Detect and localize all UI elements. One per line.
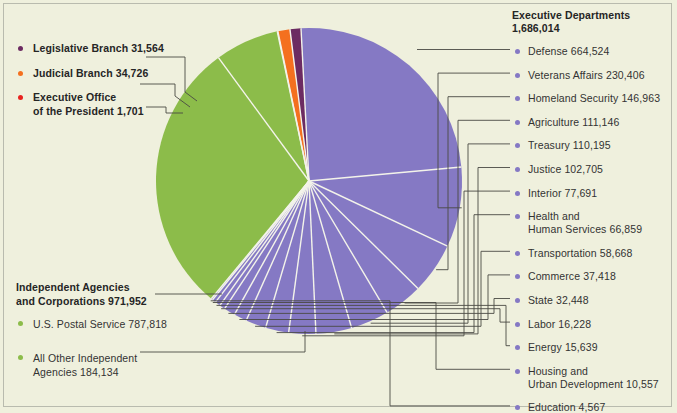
legend-label: Veterans Affairs 230,406 xyxy=(528,69,645,81)
legend-item-homeland-security-146-963[interactable]: Homeland Security 146,963 xyxy=(512,92,677,116)
legend-item-usps[interactable]: U.S. Postal Service 787,818 xyxy=(16,317,236,331)
infographic-root: Legislative Branch 31,564 Judicial Branc… xyxy=(0,0,677,413)
legend-item-commerce-37-418[interactable]: Commerce 37,418 xyxy=(512,270,677,294)
bullet-executive-department xyxy=(515,322,520,327)
legend-label: Education 4,567 xyxy=(528,401,605,413)
legend-item-justice-102-705[interactable]: Justice 102,705 xyxy=(512,163,677,187)
legend-label: Labor 16,228 xyxy=(528,318,591,330)
legend-item-treasury-110-195[interactable]: Treasury 110,195 xyxy=(512,139,677,163)
bullet-executive-office xyxy=(18,95,23,100)
bullet-executive-department xyxy=(515,73,520,78)
legend-label-line2: of the President 1,701 xyxy=(33,105,144,117)
legend-item-executive-office[interactable]: Executive Office of the President 1,701 xyxy=(16,91,216,118)
bullet-all-other-independent-agencies xyxy=(18,355,23,360)
executive-departments-list: Defense 664,524Veterans Affairs 230,406H… xyxy=(512,45,677,413)
legend-item-housing-and[interactable]: Housing andUrban Development 10,557 xyxy=(512,365,677,402)
legend-label-line2: Human Services 66,859 xyxy=(528,223,642,235)
legend-label: U.S. Postal Service 787,818 xyxy=(33,318,167,330)
bullet-executive-department xyxy=(515,167,520,172)
legend-label: Homeland Security 146,963 xyxy=(528,92,660,104)
legend-label: Interior 77,691 xyxy=(528,187,597,199)
independent-agencies-block: Independent Agencies and Corporations 97… xyxy=(16,281,236,399)
legend-label: Transportation 58,668 xyxy=(528,247,632,259)
legend-item-interior-77-691[interactable]: Interior 77,691 xyxy=(512,187,677,211)
bullet-executive-department xyxy=(515,274,520,279)
legend-label-line1: Health and xyxy=(528,210,580,222)
bullet-executive-department xyxy=(515,120,520,125)
bullet-executive-department xyxy=(515,405,520,410)
bullet-executive-department xyxy=(515,345,520,350)
pie-slice[interactable] xyxy=(301,28,461,181)
executive-departments-title: Executive Departments 1,686,014 xyxy=(512,9,677,35)
legend-label-line1: Housing and xyxy=(528,365,588,377)
bullet-executive-department xyxy=(515,214,520,219)
legend-item-transportation-58-668[interactable]: Transportation 58,668 xyxy=(512,247,677,271)
legend-label: Energy 15,639 xyxy=(528,341,598,353)
legend-label-line2: Urban Development 10,557 xyxy=(528,378,659,390)
left-legend: Legislative Branch 31,564 Judicial Branc… xyxy=(16,42,216,129)
legend-label: State 32,448 xyxy=(528,294,589,306)
legend-item-judicial-branch[interactable]: Judicial Branch 34,726 xyxy=(16,67,216,81)
bullet-executive-department xyxy=(515,143,520,148)
bullet-usps xyxy=(18,321,23,326)
legend-item-veterans-affairs-230-406[interactable]: Veterans Affairs 230,406 xyxy=(512,69,677,93)
legend-item-defense-664-524[interactable]: Defense 664,524 xyxy=(512,45,677,69)
legend-item-education-4-567[interactable]: Education 4,567 xyxy=(512,401,677,413)
legend-label: Judicial Branch 34,726 xyxy=(33,67,148,79)
legend-label-line2: Agencies 184,134 xyxy=(33,366,119,378)
title-line2: 1,686,014 xyxy=(512,22,560,34)
legend-label: Legislative Branch 31,564 xyxy=(33,42,164,54)
legend-label: Commerce 37,418 xyxy=(528,270,616,282)
legend-label: Agriculture 111,146 xyxy=(528,116,619,128)
legend-item-all-other-independent-agencies[interactable]: All Other Independent Agencies 184,134 xyxy=(16,351,236,379)
legend-label: Defense 664,524 xyxy=(528,45,609,57)
bullet-executive-department xyxy=(515,298,520,303)
legend-label-line1: All Other Independent xyxy=(33,352,137,364)
title-line1: Independent Agencies xyxy=(16,281,130,293)
legend-item-legislative-branch[interactable]: Legislative Branch 31,564 xyxy=(16,42,216,56)
bullet-executive-department xyxy=(515,49,520,54)
legend-item-health-and[interactable]: Health andHuman Services 66,859 xyxy=(512,210,677,247)
legend-item-labor-16-228[interactable]: Labor 16,228 xyxy=(512,318,677,342)
bullet-legislative-branch xyxy=(18,46,23,51)
bullet-executive-department xyxy=(515,369,520,374)
right-legend: Executive Departments 1,686,014 Defense … xyxy=(512,9,677,413)
title-line1: Executive Departments xyxy=(512,9,630,21)
legend-item-state-32-448[interactable]: State 32,448 xyxy=(512,294,677,318)
title-line2: and Corporations 971,952 xyxy=(16,295,147,307)
legend-label: Justice 102,705 xyxy=(528,163,603,175)
legend-label: Treasury 110,195 xyxy=(528,139,611,151)
legend-item-energy-15-639[interactable]: Energy 15,639 xyxy=(512,341,677,365)
bullet-executive-department xyxy=(515,251,520,256)
independent-agencies-title: Independent Agencies and Corporations 97… xyxy=(16,281,236,308)
legend-label-line1: Executive Office xyxy=(33,91,116,103)
bullet-executive-department xyxy=(515,191,520,196)
bullet-executive-department xyxy=(515,96,520,101)
bullet-judicial-branch xyxy=(18,71,23,76)
legend-item-agriculture-111-146[interactable]: Agriculture 111,146 xyxy=(512,116,677,140)
